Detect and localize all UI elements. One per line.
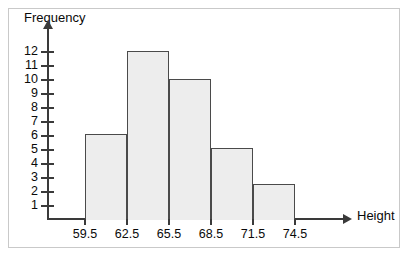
x-tick-label-68.5: 68.5 xyxy=(188,228,234,241)
y-tick-4 xyxy=(41,163,54,165)
y-axis-title: Frequency xyxy=(24,10,85,25)
chart-plot-area: Frequency 12 11 10 9 8 7 6 5 4 3 2 1 xyxy=(0,0,410,258)
y-tick-label-11: 11 xyxy=(14,59,38,71)
y-tick-6 xyxy=(41,135,54,137)
y-tick-11 xyxy=(41,65,54,67)
x-tick-label-59.5: 59.5 xyxy=(62,228,108,241)
y-tick-5 xyxy=(41,149,54,151)
x-tick-label-71.5: 71.5 xyxy=(230,228,276,241)
x-tick-65.5 xyxy=(168,219,170,225)
bar-65.5-68.5 xyxy=(169,79,211,220)
y-tick-2 xyxy=(41,191,54,193)
y-tick-8 xyxy=(41,107,54,109)
y-tick-3 xyxy=(41,177,54,179)
y-tick-label-6: 6 xyxy=(14,129,38,141)
y-tick-label-12: 12 xyxy=(14,45,38,57)
x-tick-71.5 xyxy=(252,219,254,225)
bar-59.5-62.5 xyxy=(85,134,127,220)
y-tick-label-1: 1 xyxy=(14,199,38,211)
y-tick-7 xyxy=(41,121,54,123)
y-tick-label-7: 7 xyxy=(14,115,38,127)
y-tick-label-10: 10 xyxy=(14,73,38,85)
y-tick-12 xyxy=(41,51,54,53)
y-axis-arrow-icon xyxy=(43,20,53,29)
bar-62.5-65.5 xyxy=(127,51,169,220)
x-tick-62.5 xyxy=(126,219,128,225)
x-tick-68.5 xyxy=(210,219,212,225)
y-tick-label-9: 9 xyxy=(14,87,38,99)
y-tick-1 xyxy=(41,205,54,207)
x-tick-label-74.5: 74.5 xyxy=(272,228,318,241)
x-tick-59.5 xyxy=(84,219,86,225)
bar-71.5-74.5 xyxy=(253,184,295,220)
bar-68.5-71.5 xyxy=(211,148,253,220)
x-tick-74.5 xyxy=(294,219,296,225)
y-tick-9 xyxy=(41,93,54,95)
x-tick-label-62.5: 62.5 xyxy=(104,228,150,241)
histogram-screenshot: Frequency 12 11 10 9 8 7 6 5 4 3 2 1 xyxy=(0,0,410,258)
y-tick-10 xyxy=(41,79,54,81)
y-tick-label-4: 4 xyxy=(14,157,38,169)
x-tick-label-65.5: 65.5 xyxy=(146,228,192,241)
y-tick-label-5: 5 xyxy=(14,143,38,155)
x-axis-title: Height xyxy=(357,208,395,223)
x-axis-arrow-icon xyxy=(343,214,352,224)
y-tick-label-3: 3 xyxy=(14,171,38,183)
y-tick-label-8: 8 xyxy=(14,101,38,113)
y-tick-label-2: 2 xyxy=(14,185,38,197)
